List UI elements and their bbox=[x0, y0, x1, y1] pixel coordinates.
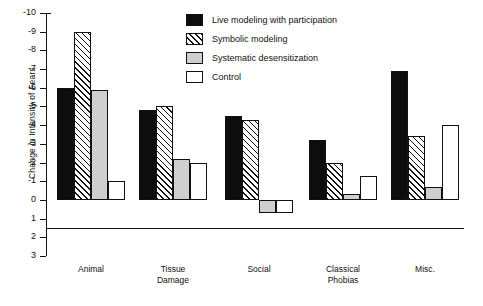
y-axis-tick-label: 0 bbox=[4, 195, 36, 204]
bar-chart: Change in Intensity of Fears -10-9-8-7-6… bbox=[0, 0, 483, 306]
y-axis-tick-label: -10 bbox=[4, 8, 36, 17]
bar bbox=[442, 125, 459, 200]
legend-swatch-icon bbox=[186, 71, 203, 83]
bar bbox=[190, 163, 207, 200]
y-axis-tick-label: -7 bbox=[4, 64, 36, 73]
bar bbox=[242, 120, 259, 200]
legend-item: Symbolic modeling bbox=[186, 29, 337, 48]
x-axis-label: Misc. bbox=[370, 264, 480, 275]
bar bbox=[309, 140, 326, 200]
bar bbox=[91, 90, 108, 200]
y-axis-tick-label: 1 bbox=[4, 214, 36, 223]
y-axis-tick-label: -4 bbox=[4, 120, 36, 129]
bar bbox=[425, 187, 442, 200]
bar bbox=[139, 110, 156, 200]
x-axis-label-line: Misc. bbox=[370, 264, 480, 275]
bar bbox=[225, 116, 242, 200]
y-axis-tick-label: -5 bbox=[4, 101, 36, 110]
y-axis-tick-label: -8 bbox=[4, 45, 36, 54]
bar bbox=[259, 200, 276, 213]
y-axis-tick-label: 3 bbox=[4, 251, 36, 260]
bar bbox=[276, 200, 293, 213]
bar bbox=[156, 106, 173, 199]
y-axis-tick-label: -6 bbox=[4, 83, 36, 92]
legend-label: Control bbox=[212, 72, 241, 82]
legend-item: Control bbox=[186, 67, 337, 86]
legend-item: Systematic desensitization bbox=[186, 48, 337, 67]
bar bbox=[108, 181, 125, 200]
y-axis-tick-label: -2 bbox=[4, 158, 36, 167]
legend-swatch-icon bbox=[186, 52, 203, 64]
bar bbox=[360, 176, 377, 200]
bar bbox=[391, 71, 408, 200]
y-axis-tick bbox=[40, 256, 46, 257]
legend-item: Live modeling with participation bbox=[186, 10, 337, 29]
bar bbox=[74, 32, 91, 200]
y-axis-tick-label: -9 bbox=[4, 27, 36, 36]
legend-label: Symbolic modeling bbox=[212, 34, 288, 44]
legend: Live modeling with participationSymbolic… bbox=[186, 10, 337, 86]
bar bbox=[343, 194, 360, 200]
legend-swatch-icon bbox=[186, 33, 203, 45]
bar bbox=[57, 88, 74, 200]
legend-swatch-icon bbox=[186, 14, 203, 26]
y-axis-tick-label: 2 bbox=[4, 232, 36, 241]
bar bbox=[408, 136, 425, 200]
y-axis-tick-label: -1 bbox=[4, 176, 36, 185]
legend-label: Systematic desensitization bbox=[212, 53, 318, 63]
x-axis-label-line: Phobias bbox=[288, 275, 398, 286]
x-axis-label-line: Damage bbox=[118, 275, 228, 286]
bar bbox=[326, 163, 343, 200]
y-axis-tick-label: -3 bbox=[4, 139, 36, 148]
bar bbox=[173, 159, 190, 200]
legend-label: Live modeling with participation bbox=[212, 15, 337, 25]
